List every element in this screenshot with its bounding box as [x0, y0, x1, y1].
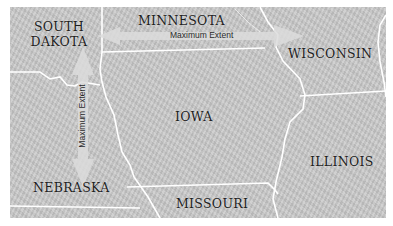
state-label-wisconsin: WISCONSIN [288, 46, 372, 61]
vertical-arrow-label: Maximum Extent [77, 84, 87, 147]
state-label-iowa: IOWA [175, 109, 213, 124]
horizontal-arrow-label: Maximum Extent [170, 30, 233, 40]
state-label-missouri: MISSOURI [176, 196, 248, 211]
relief-map: SOUTH DAKOTA MINNESOTA WISCONSIN IOWA IL… [10, 7, 386, 218]
state-label-minnesota: MINNESOTA [138, 13, 225, 28]
state-label-nebraska: NEBRASKA [33, 180, 110, 195]
state-label-illinois: ILLINOIS [310, 154, 374, 169]
state-label-south-dakota: SOUTH DAKOTA [24, 19, 94, 49]
